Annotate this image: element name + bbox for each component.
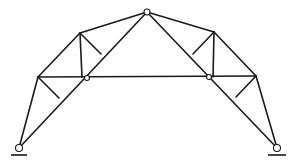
crown-hinge-icon bbox=[144, 9, 150, 15]
truss-svg bbox=[0, 0, 300, 165]
truss-diagram bbox=[0, 0, 300, 165]
member-L2-LB bbox=[80, 33, 82, 77]
member-R1-RS1 bbox=[236, 76, 256, 97]
member-R2-RS2 bbox=[193, 32, 214, 54]
right-chord-hinge-icon bbox=[207, 75, 212, 80]
member-R2-RB bbox=[213, 32, 214, 77]
member-L1-L2 bbox=[38, 33, 80, 77]
left-support-pin-icon bbox=[16, 145, 23, 152]
hinges bbox=[16, 9, 281, 152]
member-L2-LS2 bbox=[80, 33, 101, 54]
right-support-pin-icon bbox=[274, 145, 281, 152]
member-L1-LS1 bbox=[38, 77, 59, 98]
left-chord-hinge-icon bbox=[85, 76, 90, 81]
member-L1-R1 bbox=[38, 76, 256, 77]
truss-members bbox=[19, 12, 277, 148]
member-R2-R1 bbox=[214, 32, 256, 76]
